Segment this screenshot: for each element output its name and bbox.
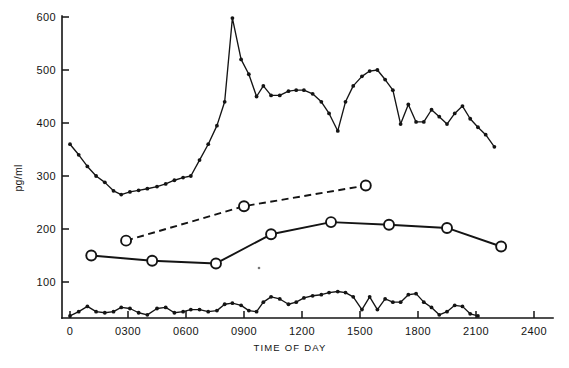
filled-circle-marker	[311, 294, 315, 298]
filled-circle-marker	[327, 291, 331, 295]
filled-circle-marker	[119, 193, 123, 197]
open-circle-marker	[121, 236, 131, 246]
filled-circle-marker	[302, 296, 306, 300]
stray-speck-mark	[258, 267, 261, 270]
open-circle-marker	[361, 181, 371, 191]
filled-circle-marker	[476, 314, 480, 318]
filled-circle-marker	[351, 295, 355, 299]
x-tick-label: 1800	[405, 325, 431, 337]
series-path	[126, 186, 366, 241]
filled-circle-marker	[445, 122, 449, 126]
filled-circle-marker	[231, 16, 235, 20]
filled-circle-marker	[206, 142, 210, 146]
filled-circle-marker	[492, 145, 496, 149]
filled-circle-marker	[247, 309, 251, 313]
filled-circle-marker	[255, 95, 259, 99]
filled-circle-marker	[255, 310, 259, 314]
filled-circle-marker	[327, 112, 331, 116]
filled-circle-marker	[68, 314, 72, 318]
open-circle-marker	[211, 258, 221, 268]
filled-circle-marker	[155, 185, 159, 189]
filled-circle-marker	[239, 58, 243, 62]
open-circle-marker	[266, 229, 276, 239]
filled-circle-marker	[215, 124, 219, 128]
filled-circle-marker	[77, 153, 81, 157]
series-path	[70, 18, 494, 194]
filled-circle-marker	[215, 309, 219, 313]
filled-circle-marker	[112, 310, 116, 314]
filled-circle-marker	[302, 88, 306, 92]
filled-circle-marker	[336, 290, 340, 294]
figure-container: 100200300400500600 003000600090012001500…	[0, 0, 569, 368]
filled-circle-marker	[68, 142, 72, 146]
filled-circle-marker	[461, 304, 465, 308]
filled-circle-marker	[112, 189, 116, 193]
y-axis-group: 100200300400500600	[36, 11, 69, 318]
filled-circle-marker	[278, 94, 282, 98]
filled-circle-marker	[360, 74, 364, 78]
filled-circle-marker	[239, 303, 243, 307]
open-circle-marker	[326, 217, 336, 227]
filled-circle-marker	[223, 302, 227, 306]
filled-circle-marker	[351, 84, 355, 88]
upper-dashed-open-circle-series	[121, 181, 371, 246]
filled-circle-marker	[430, 108, 434, 112]
filled-circle-marker	[137, 188, 141, 192]
x-tick-label: 0300	[115, 325, 141, 337]
filled-circle-marker	[77, 310, 81, 314]
filled-circle-marker	[376, 68, 380, 72]
open-circle-marker	[442, 223, 452, 233]
open-circle-marker	[239, 201, 249, 211]
filled-circle-marker	[383, 297, 387, 301]
filled-circle-marker	[181, 176, 185, 180]
filled-circle-marker	[278, 297, 282, 301]
filled-circle-marker	[198, 158, 202, 162]
filled-circle-marker	[86, 165, 90, 169]
filled-circle-marker	[319, 100, 323, 104]
filled-circle-marker	[391, 300, 395, 304]
y-tick-label: 500	[36, 64, 56, 76]
filled-circle-marker	[468, 312, 472, 316]
filled-circle-marker	[376, 308, 380, 312]
filled-circle-marker	[476, 125, 480, 129]
filled-circle-marker	[319, 293, 323, 297]
upper-frequent-sampling-series	[68, 16, 496, 196]
open-circle-marker	[147, 256, 157, 266]
open-circle-marker	[86, 251, 96, 261]
open-circle-marker	[496, 241, 506, 251]
x-tick-label: 2400	[521, 325, 547, 337]
filled-circle-marker	[437, 115, 441, 119]
filled-circle-marker	[294, 88, 298, 92]
middle-solid-open-circle-series	[86, 217, 506, 268]
filled-circle-marker	[294, 300, 298, 304]
filled-circle-marker	[128, 190, 132, 194]
filled-circle-marker	[189, 308, 193, 312]
filled-circle-marker	[269, 295, 273, 299]
y-axis-ticks: 100200300400500600	[36, 11, 69, 288]
filled-circle-marker	[164, 182, 168, 186]
filled-circle-marker	[484, 133, 488, 137]
data-series-layer	[68, 16, 506, 318]
filled-circle-marker	[430, 306, 434, 310]
filled-circle-marker	[406, 293, 410, 297]
y-tick-label: 600	[36, 11, 56, 23]
filled-circle-marker	[103, 180, 107, 184]
y-tick-label: 100	[36, 276, 56, 288]
x-tick-label: 1200	[289, 325, 315, 337]
filled-circle-marker	[181, 310, 185, 314]
filled-circle-marker	[399, 122, 403, 126]
filled-circle-marker	[206, 310, 210, 314]
filled-circle-marker	[344, 100, 348, 104]
filled-circle-marker	[145, 313, 149, 317]
filled-circle-marker	[287, 89, 291, 93]
filled-circle-marker	[261, 300, 265, 304]
x-axis-title: TIME OF DAY	[253, 342, 326, 353]
filled-circle-marker	[287, 302, 291, 306]
filled-circle-marker	[468, 117, 472, 121]
y-tick-label: 200	[36, 223, 56, 235]
filled-circle-marker	[173, 311, 177, 315]
filled-circle-marker	[86, 304, 90, 308]
filled-circle-marker	[155, 307, 159, 311]
filled-circle-marker	[422, 120, 426, 124]
filled-circle-marker	[453, 303, 457, 307]
